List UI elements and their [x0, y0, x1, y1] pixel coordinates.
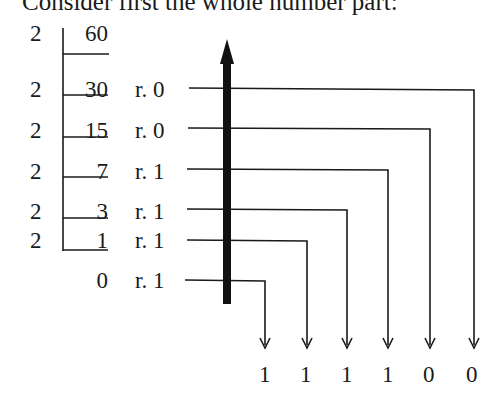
connector-line [187, 209, 347, 345]
read-upward-arrow-icon [220, 39, 234, 304]
connector-line [189, 88, 474, 345]
arrowhead-icon [260, 338, 479, 348]
division-diagram [0, 0, 500, 403]
connector-line [187, 240, 307, 345]
connector-line [187, 169, 388, 345]
